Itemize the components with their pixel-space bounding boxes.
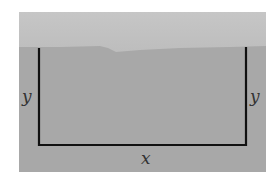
- side-label-left: y: [22, 88, 32, 105]
- diagram-svg: [0, 0, 280, 177]
- side-label-right: y: [250, 88, 260, 105]
- side-label-bottom: x: [141, 150, 151, 167]
